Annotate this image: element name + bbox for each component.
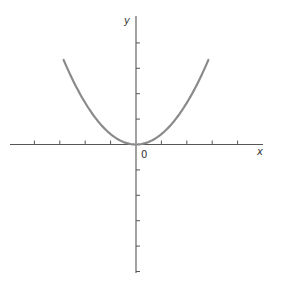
y-axis-label: y [124,15,130,26]
parabola-plot [0,0,281,287]
x-axis-label: x [257,146,263,157]
origin-label: 0 [141,149,147,160]
